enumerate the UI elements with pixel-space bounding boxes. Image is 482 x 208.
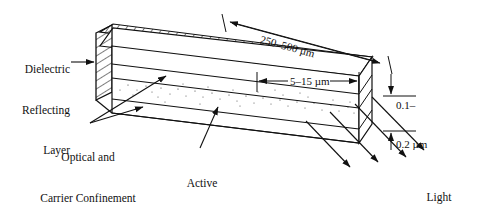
active-label-line1: Active	[157, 177, 247, 191]
confinement-layers-label: Optical and Carrier Confinement Layers	[4, 124, 172, 208]
laser-diode-diagram: Dielectric Reflecting Layer Optical and …	[0, 0, 482, 208]
emission-label-line1: Light	[402, 191, 476, 205]
thickness-label-line1: 0.1–	[396, 99, 427, 112]
dielectric-label-line2: Reflecting	[8, 104, 70, 118]
thickness-label-line2: 0.2 µm	[396, 138, 427, 151]
length-tick-left	[222, 14, 226, 32]
active-cavity-area-label: Active Cavity Area	[157, 150, 247, 208]
thickness-dimension-label: 0.1– 0.2 µm	[396, 73, 427, 177]
dielectric-label-line1: Dielectric	[8, 63, 70, 77]
width-dimension-label: 5–15 µm	[290, 75, 330, 88]
confinement-label-line2: Carrier Confinement	[4, 192, 172, 206]
length-tick-right	[388, 56, 392, 74]
confinement-label-line1: Optical and	[4, 151, 172, 165]
dielectric-reflecting-face	[96, 25, 112, 100]
